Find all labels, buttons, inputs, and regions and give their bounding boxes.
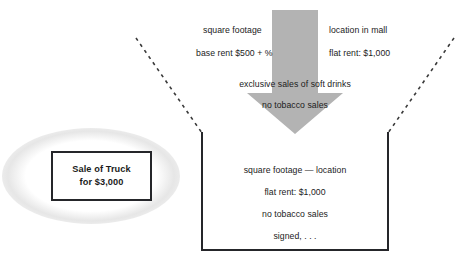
input-label-location-in-mall: location in mall — [329, 25, 387, 36]
diagram-vector-layer — [0, 0, 475, 273]
agreement-line-signed: signed, . . . — [273, 231, 316, 242]
agreement-line-square-footage-location: square footage — location — [244, 165, 347, 176]
input-label-exclusive-soft-drinks: exclusive sales of soft drinks — [239, 79, 351, 90]
input-label-square-footage: square footage — [203, 25, 262, 36]
sale-of-truck-box: Sale of Truck for $3,000 — [51, 151, 152, 201]
agreement-line-no-tobacco-sales: no tobacco sales — [262, 209, 328, 220]
sale-of-truck-line-1: Sale of Truck — [72, 163, 131, 177]
agreement-line-flat-rent: flat rent: $1,000 — [264, 187, 325, 198]
dashed-guide-left-icon — [136, 38, 202, 133]
dashed-guide-right-icon — [388, 38, 454, 133]
input-label-base-rent: base rent $500 + % — [196, 48, 273, 59]
input-label-flat-rent: flat rent: $1,000 — [329, 48, 390, 59]
diagram-canvas: Sale of Truck for $3,000 square footage … — [0, 0, 475, 273]
input-label-no-tobacco-sales: no tobacco sales — [262, 100, 328, 111]
sale-of-truck-line-2: for $3,000 — [80, 176, 124, 190]
